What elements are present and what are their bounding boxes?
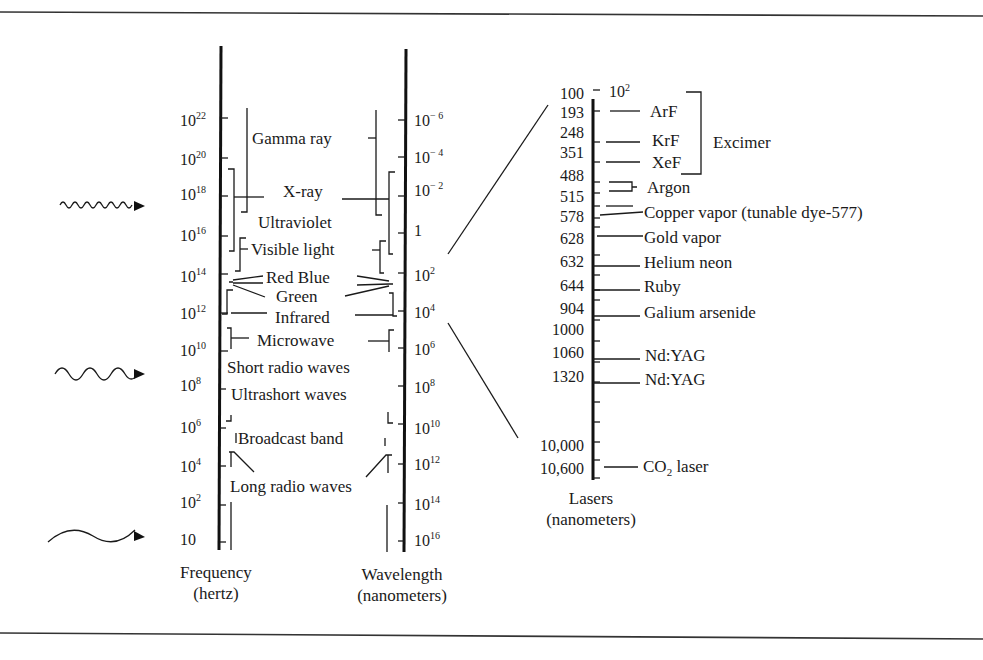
laser-value: 515 — [560, 188, 584, 205]
laser-value: 100 — [560, 85, 584, 102]
laser-value: 1060 — [552, 344, 584, 361]
laser-name-nd-yag-1320: Nd:YAG — [645, 370, 705, 389]
band-green: Green — [276, 287, 318, 306]
wave-tick-label: 102 — [414, 265, 435, 284]
freq-tick-label: 1018 — [180, 184, 206, 203]
wave-tick-label: 1016 — [414, 530, 440, 549]
band-infrared: Infrared — [275, 308, 330, 327]
excimer-group-label: Excimer — [713, 133, 771, 152]
laser-names: ArF KrF XeF Argon Copper vapor (tunable … — [643, 102, 863, 478]
wave-tick-label: 10− 2 — [414, 180, 443, 199]
wavelength-axis-line — [404, 49, 406, 552]
wave-tick-label: 1012 — [414, 454, 440, 473]
band-broadcast-band: Broadcast band — [238, 429, 344, 448]
freq-tick-label: 106 — [180, 417, 201, 436]
laser-value: 644 — [560, 277, 584, 294]
laser-value: 351 — [560, 144, 584, 161]
freq-tick-label: 1014 — [180, 266, 206, 285]
laser-values: 100 193 248 351 488 515 578 628 632 644 … — [540, 85, 584, 477]
band-long-radio-waves: Long radio waves — [230, 477, 352, 496]
laser-top-label: 102 — [609, 82, 630, 100]
band-ultrashort-waves: Ultrashort waves — [231, 385, 347, 404]
bottom-rule — [0, 633, 983, 639]
laser-value: 628 — [560, 230, 584, 247]
laser-name-nd-yag-1060: Nd:YAG — [645, 346, 705, 365]
wavelength-axis-title: Wavelength — [362, 565, 443, 584]
wave-tick-label: 104 — [414, 302, 435, 321]
band-microwave: Microwave — [257, 331, 334, 350]
freq-tick-label: 1022 — [180, 110, 206, 129]
frequency-axis-line — [219, 46, 221, 550]
freq-tick-label: 108 — [180, 375, 201, 394]
freq-tick-label: 1010 — [180, 340, 206, 359]
wave-tick-label: 108 — [414, 377, 435, 396]
zoom-connector-top — [448, 105, 548, 254]
frequency-axis-unit: (hertz) — [193, 584, 238, 603]
wave-tick-label: 1010 — [414, 418, 440, 437]
band-red-blue: Red Blue — [266, 268, 330, 287]
electromagnetic-spectrum-diagram: 1022 1020 1018 1016 1014 1012 1010 108 1… — [0, 0, 983, 660]
laser-value: 193 — [560, 104, 584, 121]
long-wave-icon — [48, 530, 145, 542]
medium-wave-icon — [55, 368, 145, 380]
laser-value: 10,000 — [540, 437, 584, 454]
laser-value: 904 — [560, 300, 584, 317]
laser-axis-title: Lasers — [569, 489, 613, 508]
laser-value: 1000 — [552, 321, 584, 338]
laser-value: 248 — [560, 124, 584, 141]
laser-name-gold-vapor: Gold vapor — [644, 228, 721, 247]
laser-name-arf: ArF — [650, 102, 677, 121]
band-short-radio-waves: Short radio waves — [227, 358, 350, 377]
laser-name-xef: XeF — [652, 153, 681, 172]
short-wave-icon — [60, 201, 145, 211]
wave-tick-label: 106 — [414, 339, 435, 358]
laser-value: 578 — [560, 208, 584, 225]
laser-name-helium-neon: Helium neon — [644, 253, 733, 272]
laser-name-krf: KrF — [652, 131, 679, 150]
wave-tick-label: 1014 — [414, 494, 440, 513]
laser-value: 1320 — [552, 368, 584, 385]
top-rule — [0, 12, 983, 16]
wave-tick-label: 10− 6 — [414, 110, 443, 129]
laser-name-ruby: Ruby — [644, 277, 681, 296]
freq-tick-label: 1020 — [180, 149, 206, 168]
laser-value: 10,600 — [540, 460, 584, 477]
laser-name-co2: CO2 laser — [643, 457, 709, 478]
frequency-tick-labels: 1022 1020 1018 1016 1014 1012 1010 108 1… — [180, 110, 206, 548]
band-visible-light: Visible light — [251, 240, 335, 259]
wavelength-tick-labels: 10− 6 10− 4 10− 2 1 102 104 106 108 1010… — [414, 110, 443, 549]
laser-name-argon: Argon — [647, 178, 691, 197]
band-x-ray: X-ray — [283, 182, 323, 201]
freq-tick-label: 104 — [180, 456, 201, 475]
band-gamma-ray: Gamma ray — [252, 129, 332, 148]
wave-tick-label: 1 — [414, 222, 422, 239]
wavelength-axis-unit: (nanometers) — [357, 586, 447, 605]
laser-axis-unit: (nanometers) — [546, 510, 636, 529]
freq-tick-label: 1016 — [180, 225, 206, 244]
band-ultraviolet: Ultraviolet — [258, 213, 332, 232]
wave-tick-label: 10− 4 — [414, 147, 443, 166]
laser-name-copper-vapor: Copper vapor (tunable dye-577) — [644, 203, 863, 222]
freq-tick-label: 1012 — [180, 303, 206, 322]
laser-value: 488 — [560, 167, 584, 184]
freq-tick-label: 10 — [180, 531, 196, 548]
frequency-axis-title: Frequency — [180, 563, 252, 582]
freq-tick-label: 102 — [180, 492, 201, 511]
laser-value: 632 — [560, 253, 584, 270]
zoom-connector-bottom — [448, 323, 518, 438]
laser-name-galium-arsenide: Galium arsenide — [644, 303, 756, 322]
